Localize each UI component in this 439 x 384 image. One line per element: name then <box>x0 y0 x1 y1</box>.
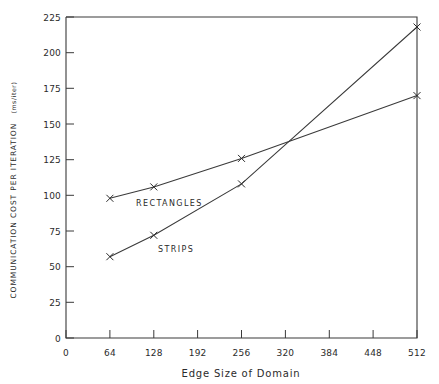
svg-text:COMMUNICATION COST PER ITERATI: COMMUNICATION COST PER ITERATION (ms/ite… <box>9 81 18 298</box>
series-strips: STRIPS <box>106 24 420 261</box>
x-tick-label: 512 <box>408 348 426 358</box>
line-chart: 0 25 50 75 100 125 150 175 200 225 0 64 <box>0 0 439 384</box>
series-strips-markers <box>106 24 420 261</box>
x-tick-label: 0 <box>63 348 69 358</box>
y-axis-title-main: COMMUNICATION COST PER ITERATION <box>9 123 18 299</box>
x-axis-ticks <box>66 330 417 338</box>
plot-frame <box>66 17 417 338</box>
x-axis-title: Edge Size of Domain <box>182 368 301 379</box>
series-rectangles-markers <box>106 92 420 202</box>
x-tick-label: 192 <box>189 348 207 358</box>
y-axis-title-unit: (ms/iter) <box>10 81 17 113</box>
chart-figure: 0 25 50 75 100 125 150 175 200 225 0 64 <box>0 0 439 384</box>
y-axis-ticks <box>66 17 74 338</box>
y-tick-label: 0 <box>55 334 61 344</box>
x-tick-label: 128 <box>145 348 163 358</box>
y-tick-label: 225 <box>43 13 61 23</box>
y-axis-tick-labels: 0 25 50 75 100 125 150 175 200 225 <box>43 13 61 344</box>
y-axis-title: COMMUNICATION COST PER ITERATION (ms/ite… <box>9 81 18 298</box>
x-tick-label: 384 <box>320 348 338 358</box>
series-rectangles-line <box>110 96 417 199</box>
y-tick-label: 200 <box>43 48 61 58</box>
x-tick-label: 320 <box>277 348 295 358</box>
y-tick-label: 75 <box>49 227 61 237</box>
x-axis-tick-labels: 0 64 128 192 256 320 384 448 512 <box>63 348 426 358</box>
series-label-strips: STRIPS <box>158 245 194 254</box>
y-tick-label: 100 <box>43 191 61 201</box>
y-tick-label: 175 <box>43 84 61 94</box>
series-strips-line <box>110 27 417 257</box>
y-tick-label: 150 <box>43 120 61 130</box>
y-tick-label: 50 <box>49 262 61 272</box>
y-tick-label: 25 <box>49 298 61 308</box>
series-label-rectangles: RECTANGLES <box>136 199 203 208</box>
series-rectangles: RECTANGLES <box>106 92 420 208</box>
y-tick-label: 125 <box>43 155 61 165</box>
x-tick-label: 448 <box>364 348 382 358</box>
x-tick-label: 64 <box>104 348 116 358</box>
x-tick-label: 256 <box>233 348 251 358</box>
